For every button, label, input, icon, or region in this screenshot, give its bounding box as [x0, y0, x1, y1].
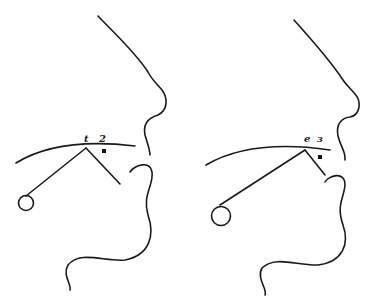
diagram-canvas: t 2 e ɜ	[0, 0, 374, 308]
face-profile-lower	[260, 176, 345, 295]
panel-right: e ɜ	[206, 20, 359, 295]
label-left-2: 2	[98, 133, 106, 144]
face-profile-upper	[98, 16, 166, 155]
label-right-1: e	[304, 133, 310, 144]
position-marker	[318, 155, 322, 159]
palate-arc	[16, 144, 135, 163]
tongue-line-front	[305, 150, 325, 175]
pivot-circle	[212, 207, 231, 226]
pivot-circle	[19, 196, 34, 211]
tongue-line-back	[220, 150, 305, 205]
face-profile-lower	[66, 165, 152, 290]
panel-left: t 2	[16, 16, 166, 290]
label-left-1: t	[84, 133, 89, 144]
label-right-2: ɜ	[316, 133, 323, 144]
tongue-line-back	[26, 148, 86, 196]
palate-arc	[206, 146, 330, 165]
position-marker	[102, 149, 106, 153]
tongue-line-front	[86, 148, 120, 184]
